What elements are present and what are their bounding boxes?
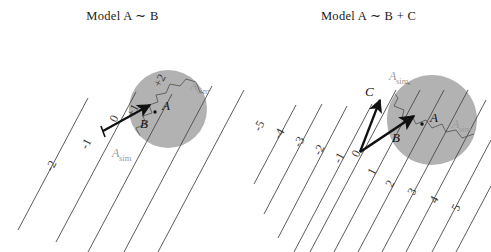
point-a-marker: [153, 110, 156, 113]
a-sim-sub: sim: [119, 153, 132, 163]
contour-label: -1: [330, 150, 347, 165]
a-sim-sub: sim: [396, 76, 409, 86]
contour-label: 5: [448, 202, 463, 214]
contour-line: [56, 92, 136, 242]
vector-c-label: C: [365, 84, 374, 99]
contour-line: [264, 104, 322, 214]
contour-line: [294, 104, 372, 252]
contour-line: [310, 90, 396, 252]
contour-label: -4: [270, 126, 287, 141]
contour-label: 1: [364, 166, 379, 178]
contour-label: 3: [404, 186, 419, 198]
contour-label: 4: [426, 194, 441, 206]
figure-root: Model A ∼ B: [0, 0, 491, 252]
vector-b-label: B: [140, 116, 148, 131]
contour-line: [254, 105, 296, 184]
contour-label: -2: [310, 142, 327, 157]
contour-label: -5: [250, 118, 267, 133]
a-sim-sub: sim: [197, 86, 210, 96]
point-a-label: A: [161, 98, 170, 113]
vector-b-label: B: [392, 130, 400, 145]
a-sim-label-lower-left: A sim: [111, 146, 132, 163]
panel-model-a-b-c: Model A ∼ B + C: [246, 0, 491, 252]
contour-label: -2: [42, 158, 59, 173]
panel-left-plot: -2 -1 0 +1 +2 B A A sim A sim: [0, 0, 245, 252]
panel-model-a-b: Model A ∼ B: [0, 0, 245, 252]
a-sim-sub: sim: [459, 124, 472, 134]
point-a-label: A: [429, 110, 438, 125]
contour-label: -1: [77, 136, 94, 151]
a-sim-label-top: A sim: [388, 69, 409, 86]
point-a-marker: [420, 122, 423, 125]
contour-label: 2: [382, 178, 397, 190]
panel-right-plot: -5 -4 -3 -2 -1 0 1 2 3 4 5 C B A: [246, 0, 491, 252]
